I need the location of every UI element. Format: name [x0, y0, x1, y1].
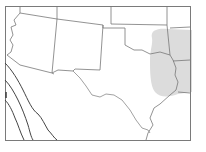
shaded-region [150, 29, 192, 97]
rio-grande-line [73, 71, 150, 133]
mexico-contours [5, 63, 57, 140]
map [0, 0, 206, 152]
